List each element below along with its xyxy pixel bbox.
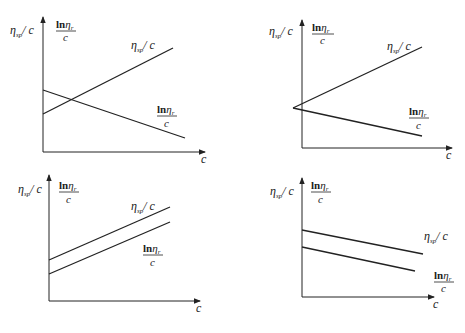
series-label-sp: ηsp/ c: [424, 229, 449, 245]
x-axis-label: c: [201, 152, 207, 166]
panel-bottom-left: ηsp/ c lnηr c ηsp/ c lnηr c c: [18, 175, 202, 315]
series-label-sp: ηsp/ c: [131, 199, 156, 215]
series-label-ln-numerator: lnηr: [157, 103, 175, 117]
series-label-ln-numerator: lnηr: [409, 105, 427, 119]
series-label-ln-denominator: c: [150, 256, 155, 268]
series-line-ln: [302, 247, 415, 271]
panel-top-left: ηsp/ c lnηr c ηsp/ c lnηr c c: [10, 17, 207, 166]
x-axis-label: c: [433, 297, 439, 311]
x-axis-label: c: [446, 148, 452, 162]
y-axis-label-sp: ηsp/ c: [18, 182, 43, 198]
panel-top-right: ηsp/ c lnηr c ηsp/ c lnηr c c: [269, 20, 452, 162]
y-axis-label-ln-denominator: c: [320, 34, 325, 46]
series-label-ln-denominator: c: [441, 282, 446, 294]
y-axis-label-ln-numerator: lnηr: [56, 18, 74, 32]
series-label-sp: ηsp/ c: [387, 39, 412, 55]
series-line-sp: [43, 48, 173, 114]
y-axis-label-sp: ηsp/ c: [270, 184, 295, 200]
series-line-ln: [293, 108, 422, 136]
y-axis-label-sp: ηsp/ c: [10, 23, 35, 39]
series-label-sp: ηsp/ c: [131, 38, 156, 54]
series-label-ln-numerator: lnηr: [434, 269, 452, 283]
series-label-ln-denominator: c: [164, 117, 169, 129]
y-axis-label-ln-denominator: c: [66, 193, 71, 205]
series-label-ln-numerator: lnηr: [143, 242, 161, 256]
figure-canvas: ηsp/ c lnηr c ηsp/ c lnηr c c ηsp/ c lnη…: [0, 0, 465, 333]
x-axis-label: c: [196, 301, 202, 315]
series-line-sp: [293, 47, 422, 108]
series-label-ln-denominator: c: [416, 119, 421, 131]
y-axis-label-ln-denominator: c: [63, 31, 68, 43]
y-axis-label-sp: ηsp/ c: [269, 24, 294, 40]
y-axis-label-ln-denominator: c: [318, 193, 323, 205]
y-axis-label-ln-numerator: lnηr: [311, 179, 329, 193]
y-axis-label-ln-numerator: lnηr: [312, 21, 330, 35]
y-axis-label-ln-numerator: lnηr: [59, 179, 77, 193]
panel-bottom-right: ηsp/ c lnηr c ηsp/ c lnηr c c: [270, 178, 454, 311]
